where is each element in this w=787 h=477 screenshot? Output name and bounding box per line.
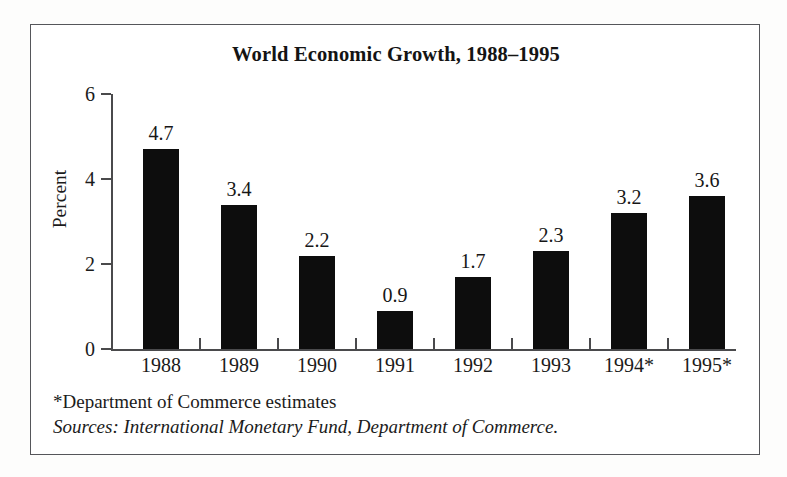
y-axis-tick-label: 0 xyxy=(49,339,95,359)
page-background: World Economic Growth, 1988–1995 0246 Pe… xyxy=(0,0,787,477)
y-axis-tick xyxy=(101,178,111,180)
x-axis-tick-label: 1991 xyxy=(351,355,439,375)
y-axis-tick-label: 6 xyxy=(49,84,95,104)
y-axis-tick xyxy=(101,348,111,350)
footnote-estimates: *Department of Commerce estimates xyxy=(53,389,743,414)
figure-frame: World Economic Growth, 1988–1995 0246 Pe… xyxy=(30,24,760,455)
x-axis-tick-label: 1994* xyxy=(585,355,673,375)
x-axis-tick-label: 1995* xyxy=(663,355,751,375)
footnote-sources: Sources: International Monetary Fund, De… xyxy=(53,414,743,439)
x-axis-tick-label: 1990 xyxy=(273,355,361,375)
x-axis-tick-label: 1992 xyxy=(429,355,517,375)
x-axis-tick-label: 1993 xyxy=(507,355,595,375)
footnotes: *Department of Commerce estimates Source… xyxy=(53,389,743,439)
y-axis-tick xyxy=(101,93,111,95)
y-axis-tick xyxy=(101,263,111,265)
y-axis-title: Percent xyxy=(49,134,71,264)
x-axis-tick-label: 1989 xyxy=(195,355,283,375)
x-axis-tick-label: 1988 xyxy=(117,355,205,375)
